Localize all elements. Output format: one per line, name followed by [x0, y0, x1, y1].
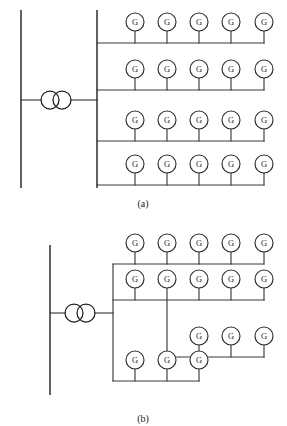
generator-label-a-1-3: G [196, 17, 202, 27]
branch-b-1: G G G G G [113, 234, 273, 264]
generator-label-a-2-2: G [164, 64, 170, 74]
feeder-a-4: G G G G G [97, 155, 273, 185]
generator-label-b-2-4: G [228, 274, 234, 284]
generator-label-a-1-2: G [164, 17, 170, 27]
generator-label-b-4-3: G [196, 355, 202, 365]
generator-label-a-4-2: G [164, 159, 170, 169]
two-winding-transformer-b [65, 304, 95, 322]
generator-label-b-2-1: G [132, 274, 138, 284]
single-line-diagram: G G G G G G G G [0, 0, 287, 426]
generator-label-b-2-2: G [164, 274, 170, 284]
subfigure-b: G G G G G G G G [50, 234, 273, 425]
generator-label-b-1-1: G [132, 238, 138, 248]
generator-label-b-1-3: G [196, 238, 202, 248]
generator-label-b-2-3: G [196, 274, 202, 284]
generator-label-a-4-3: G [196, 159, 202, 169]
generator-label-a-1-5: G [261, 17, 267, 27]
generator-label-a-2-4: G [228, 64, 234, 74]
generator-label-a-2-3: G [196, 64, 202, 74]
generator-label-a-3-5: G [261, 115, 267, 125]
generator-label-a-3-2: G [164, 115, 170, 125]
generator-label-b-4-1: G [132, 355, 138, 365]
generator-label-b-4-2: G [164, 355, 170, 365]
generator-label-b-3-2: G [228, 331, 234, 341]
feeder-a-3: G G G G G [97, 111, 273, 141]
generator-label-b-1-2: G [164, 238, 170, 248]
generator-label-a-1-1: G [132, 17, 138, 27]
generator-label-b-3-3: G [261, 331, 267, 341]
generator-label-a-1-4: G [228, 17, 234, 27]
generator-label-b-1-4: G [228, 238, 234, 248]
branch-b-3: G G G [167, 327, 273, 357]
generator-label-a-2-1: G [132, 64, 138, 74]
generator-label-b-2-5: G [261, 274, 267, 284]
transformer-winding-secondary-a [53, 91, 71, 109]
generator-label-a-4-5: G [261, 159, 267, 169]
generator-label-a-4-1: G [132, 159, 138, 169]
branch-b-2: G G G G G [113, 270, 273, 357]
generator-label-a-2-5: G [261, 64, 267, 74]
branch-b-4: G G G [113, 351, 208, 381]
generator-label-b-3-1: G [196, 331, 202, 341]
figure-root: G G G G G G G G [0, 0, 287, 426]
subfigure-caption-b: (b) [137, 413, 149, 425]
feeder-a-2: G G G G G [97, 60, 273, 90]
feeder-a-1: G G G G G [97, 13, 273, 43]
generator-label-b-1-5: G [261, 238, 267, 248]
transformer-winding-secondary-b [77, 304, 95, 322]
generator-label-a-3-1: G [132, 115, 138, 125]
generator-label-a-3-3: G [196, 115, 202, 125]
subfigure-caption-a: (a) [137, 198, 148, 210]
generator-label-a-4-4: G [228, 159, 234, 169]
generator-label-a-3-4: G [228, 115, 234, 125]
two-winding-transformer-a [41, 91, 71, 109]
subfigure-a: G G G G G G G G [21, 10, 273, 210]
